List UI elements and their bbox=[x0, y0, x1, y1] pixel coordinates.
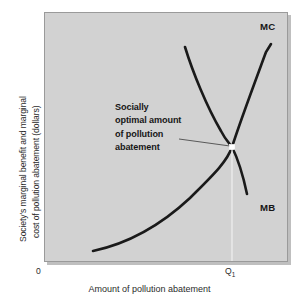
mb-curve-label: MB bbox=[260, 202, 275, 213]
mc-curve-label: MC bbox=[260, 21, 275, 32]
annotation-line-4: abatement bbox=[115, 141, 207, 154]
equilibrium-marker bbox=[229, 144, 234, 149]
figure-container: Society's marginal benefit and marginal … bbox=[0, 0, 299, 305]
annotation-line-1: Socially bbox=[115, 101, 207, 114]
socially-optimal-annotation: Socially optimal amount of pollution aba… bbox=[115, 101, 207, 154]
annotation-line-2: optimal amount bbox=[115, 114, 207, 127]
annotation-line-3: of pollution bbox=[115, 128, 207, 141]
